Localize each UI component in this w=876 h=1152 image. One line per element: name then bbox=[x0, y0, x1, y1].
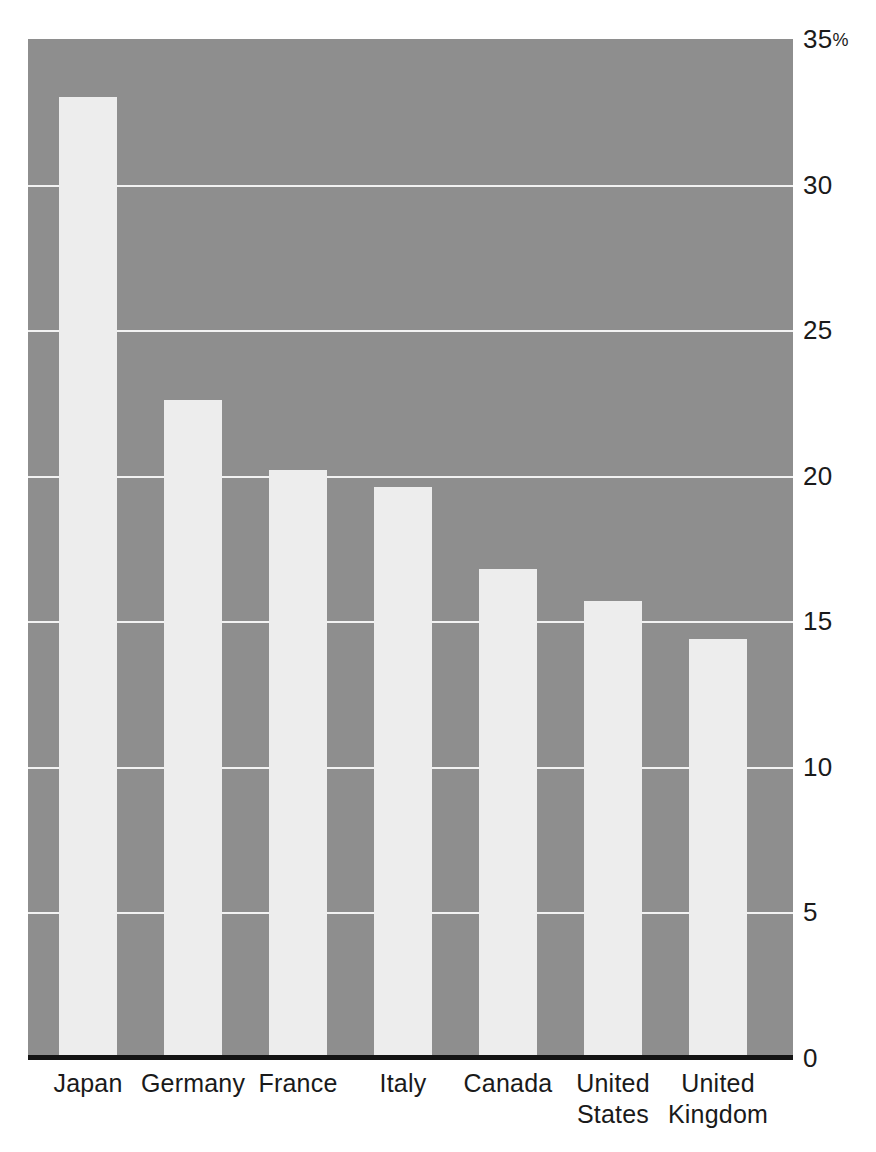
bar-japan[interactable] bbox=[59, 97, 117, 1058]
x-tick-label-germany: Germany bbox=[138, 1068, 248, 1099]
category-label-line: United bbox=[663, 1068, 773, 1099]
plot-area bbox=[28, 39, 793, 1058]
category-label-line: Germany bbox=[138, 1068, 248, 1099]
y-axis-tick-labels: 05101520253035% bbox=[803, 0, 876, 1152]
bar-canada[interactable] bbox=[479, 569, 537, 1058]
bar-germany[interactable] bbox=[164, 400, 222, 1058]
bar-italy[interactable] bbox=[374, 487, 432, 1058]
category-label-line: United bbox=[558, 1068, 668, 1099]
category-label-line: Kingdom bbox=[663, 1099, 773, 1130]
x-tick-label-france: France bbox=[243, 1068, 353, 1099]
y-tick-label-10: 10 bbox=[803, 754, 833, 780]
bar-united-kingdom[interactable] bbox=[689, 639, 747, 1058]
bar-chart: 05101520253035% JapanGermanyFranceItalyC… bbox=[0, 0, 876, 1152]
bar-united-states[interactable] bbox=[584, 601, 642, 1058]
bars-group bbox=[28, 39, 793, 1058]
y-tick-label-5: 5 bbox=[803, 899, 818, 925]
category-label-line: France bbox=[243, 1068, 353, 1099]
bar-france[interactable] bbox=[269, 470, 327, 1058]
y-tick-label-20: 20 bbox=[803, 463, 833, 489]
category-label-line: Canada bbox=[453, 1068, 563, 1099]
category-label-line: Italy bbox=[348, 1068, 458, 1099]
x-tick-label-united-states: UnitedStates bbox=[558, 1068, 668, 1130]
y-tick-label-15: 15 bbox=[803, 608, 833, 634]
category-label-line: Japan bbox=[33, 1068, 143, 1099]
x-tick-label-united-kingdom: UnitedKingdom bbox=[663, 1068, 773, 1130]
y-tick-label-35: 35% bbox=[803, 26, 849, 52]
y-tick-label-25: 25 bbox=[803, 317, 833, 343]
x-axis-baseline bbox=[28, 1055, 793, 1060]
x-axis-category-labels: JapanGermanyFranceItalyCanadaUnitedState… bbox=[28, 1068, 793, 1152]
x-tick-label-japan: Japan bbox=[33, 1068, 143, 1099]
x-tick-label-italy: Italy bbox=[348, 1068, 458, 1099]
percent-sign: % bbox=[833, 30, 849, 50]
y-tick-label-30: 30 bbox=[803, 172, 833, 198]
category-label-line: States bbox=[558, 1099, 668, 1130]
x-tick-label-canada: Canada bbox=[453, 1068, 563, 1099]
y-tick-label-0: 0 bbox=[803, 1045, 818, 1071]
